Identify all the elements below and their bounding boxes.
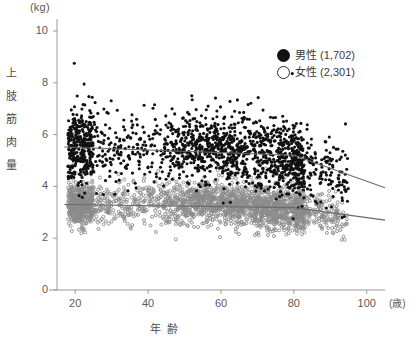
y-axis-title-char: 肉 xyxy=(2,131,20,154)
open-circle-icon xyxy=(277,66,290,79)
legend-item-female: 女性 (2,301) xyxy=(277,64,355,81)
x-axis-unit: (歳) xyxy=(389,295,406,310)
y-axis-tick-label: 2 xyxy=(26,231,48,243)
y-axis-tick-label: 0 xyxy=(26,283,48,295)
y-axis-tick-label: 8 xyxy=(26,76,48,88)
y-axis-tick-label: 6 xyxy=(26,128,48,140)
x-axis-title: 年齢 xyxy=(150,320,184,336)
legend-label-male: 男性 (1,702) xyxy=(295,47,355,64)
y-axis-tick-label: 10 xyxy=(26,24,48,36)
x-axis-tick-label: 80 xyxy=(279,297,309,309)
y-axis-unit: (kg) xyxy=(30,1,50,13)
y-axis-title-char: 肢 xyxy=(2,85,20,108)
filled-circle-icon xyxy=(277,49,290,62)
y-axis-title-char: 筋 xyxy=(2,108,20,131)
legend: 男性 (1,702) 女性 (2,301) xyxy=(277,47,355,81)
legend-label-female: 女性 (2,301) xyxy=(295,64,355,81)
y-axis-title-char: 上 xyxy=(2,62,20,85)
x-axis-tick-label: 60 xyxy=(206,297,236,309)
y-axis-tick-label: 4 xyxy=(26,179,48,191)
legend-item-male: 男性 (1,702) xyxy=(277,47,355,64)
y-axis-title: 上 肢 筋 肉 量 xyxy=(2,62,20,177)
x-axis-tick-label: 20 xyxy=(60,297,90,309)
x-axis-tick-label: 40 xyxy=(133,297,163,309)
x-axis-tick-label: 100 xyxy=(352,297,382,309)
scatter-plot-figure xyxy=(0,0,420,342)
y-axis-title-char: 量 xyxy=(2,154,20,177)
